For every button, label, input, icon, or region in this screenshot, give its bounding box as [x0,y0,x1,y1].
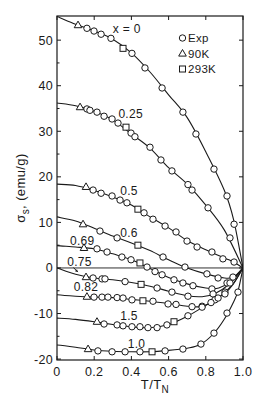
curve-label: 0.69 [70,234,95,248]
x-axis-label: T/TN [141,377,169,395]
data-point-293k-square-marker-icon [149,349,155,355]
legend-item-exp: Exp [179,32,208,44]
data-point-exp-circle-marker-icon [180,346,186,352]
x-tick-label: 0.2 [85,365,103,379]
data-point-exp-circle-marker-icon [224,310,230,316]
data-point-exp-circle-marker-icon [120,323,126,329]
y-tick-label: 0 [46,261,53,275]
data-point-exp-circle-marker-icon [215,275,221,281]
data-point-exp-circle-marker-icon [102,276,108,282]
data-point-exp-circle-marker-icon [154,285,160,291]
y-tick-label: -20 [34,353,53,367]
data-point-exp-circle-marker-icon [160,254,166,260]
data-point-exp-circle-marker-icon [171,277,177,283]
legend-item-293k: 293K [180,63,217,75]
data-point-90k-triangle-marker-icon [82,183,90,190]
data-point-exp-circle-marker-icon [182,264,188,270]
data-point-exp-circle-marker-icon [109,116,115,122]
data-point-exp-circle-marker-icon [98,190,104,196]
y-tick-label: 30 [38,125,53,139]
data-point-exp-circle-marker-icon [194,244,200,250]
data-point-exp-circle-marker-icon [208,299,214,305]
data-point-exp-circle-marker-icon [150,216,156,222]
data-point-exp-circle-marker-icon [90,187,96,193]
data-point-exp-circle-marker-icon [193,131,199,137]
data-point-exp-circle-marker-icon [91,28,97,34]
data-point-exp-circle-marker-icon [137,324,143,330]
data-point-exp-circle-marker-icon [159,85,165,91]
x-tick-label: 1.0 [234,365,252,379]
data-point-exp-circle-marker-icon [141,210,147,216]
x-tick-label: 0.6 [159,365,177,379]
y-tick-label: -10 [34,307,53,321]
x-tick-label: 0 [53,365,60,379]
data-point-exp-circle-marker-icon [109,349,115,355]
data-point-exp-circle-marker-icon [142,65,148,71]
data-point-exp-circle-marker-icon [173,301,179,307]
legend: Exp90K293K [179,32,216,75]
y-axis-label-symbol: σ [13,214,28,222]
data-point-exp-circle-marker-icon [162,223,168,229]
legend-label: 90K [188,48,209,60]
x-tick-label: 0.8 [197,365,215,379]
data-point-exp-circle-marker-icon [180,280,186,286]
data-point-exp-circle-marker-icon [94,109,100,115]
data-point-exp-circle-marker-icon [147,144,153,150]
data-point-exp-circle-marker-icon [189,303,195,309]
curve-label: 0.6 [120,226,138,240]
legend-triangle-marker-icon [179,50,187,57]
data-point-exp-circle-marker-icon [180,109,186,115]
data-point-293k-square-marker-icon [120,45,126,51]
data-point-exp-circle-marker-icon [220,256,226,262]
data-point-exp-circle-marker-icon [185,293,191,299]
data-point-exp-circle-marker-icon [124,200,130,206]
data-point-exp-circle-marker-icon [97,228,103,234]
data-point-exp-circle-marker-icon [152,268,158,274]
data-point-exp-circle-marker-icon [120,295,126,301]
x-tick-label: 0.4 [122,365,140,379]
data-point-exp-circle-marker-icon [154,324,160,330]
data-point-exp-circle-marker-icon [95,348,101,354]
data-point-exp-circle-marker-icon [185,313,191,319]
x-axis-label-main: T/T [141,377,162,392]
data-point-293k-square-marker-icon [123,124,129,130]
legend-label: Exp [188,32,209,44]
data-point-exp-circle-marker-icon [209,249,215,255]
data-point-exp-circle-marker-icon [165,301,171,307]
data-point-exp-circle-marker-icon [189,187,195,193]
data-point-293k-square-marker-icon [135,242,141,248]
legend-square-marker-icon [180,66,186,72]
data-point-exp-circle-marker-icon [122,278,128,284]
data-point-exp-circle-marker-icon [224,193,230,199]
curve-label: 1.0 [128,337,146,351]
data-point-exp-circle-marker-icon [98,31,104,37]
data-point-exp-circle-marker-icon [132,134,138,140]
data-point-exp-circle-marker-icon [128,257,134,263]
data-point-293k-square-marker-icon [171,319,177,325]
data-point-exp-circle-marker-icon [231,259,237,265]
data-point-exp-circle-marker-icon [169,168,175,174]
data-point-exp-circle-marker-icon [211,166,217,172]
data-point-293k-square-marker-icon [137,260,143,266]
legend-item-90k: 90K [179,48,210,60]
data-point-90k-triangle-marker-icon [79,220,87,227]
data-point-exp-circle-marker-icon [199,304,205,310]
y-axis-label: σs, (emu/g) [13,153,31,222]
data-point-exp-circle-marker-icon [101,113,107,119]
data-point-exp-circle-marker-icon [227,235,233,241]
y-axis-label-units: , (emu/g) [13,153,28,209]
data-point-exp-circle-marker-icon [173,229,179,235]
data-point-exp-circle-marker-icon [190,283,196,289]
y-tick-label: 10 [38,216,53,230]
data-point-exp-circle-marker-icon [162,348,168,354]
curve-label: 0.5 [120,184,138,198]
y-tick-label: 40 [38,79,53,93]
data-point-exp-circle-marker-icon [215,295,221,301]
legend-label: 293K [188,63,216,75]
data-point-90k-triangle-marker-icon [93,318,101,325]
curve-x0 [57,17,243,269]
data-point-exp-circle-marker-icon [87,107,93,113]
data-point-exp-circle-marker-icon [119,254,125,260]
data-point-exp-circle-marker-icon [158,157,164,163]
data-point-exp-circle-marker-icon [235,289,241,295]
